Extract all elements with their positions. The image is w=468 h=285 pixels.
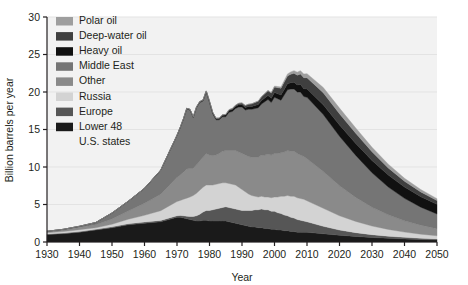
y-tick-label: 30 (28, 11, 40, 23)
chart-figure: 051015202530 193019401950196019701980199… (0, 0, 468, 285)
y-tick-label: 10 (28, 161, 40, 173)
legend-label: Russia (79, 90, 111, 102)
legend-swatch (56, 17, 73, 26)
x-tick-label: 2000 (263, 248, 287, 260)
oil-production-stacked-area-chart: 051015202530 193019401950196019701980199… (0, 0, 468, 285)
legend-label: Europe (79, 105, 113, 117)
legend-swatch (56, 62, 73, 71)
y-tick-label: 0 (34, 236, 40, 248)
legend-label: Middle East (79, 59, 134, 71)
x-tick-label: 1980 (198, 248, 222, 260)
x-tick-label: 1950 (100, 248, 124, 260)
y-tick-label: 20 (28, 86, 40, 98)
x-tick-label: 2040 (393, 248, 417, 260)
y-tick-label: 5 (34, 198, 40, 210)
x-axis-title: Year (231, 271, 253, 283)
x-tick-label: 2050 (425, 248, 449, 260)
y-tick-label: 15 (28, 123, 40, 135)
legend-swatch (56, 93, 73, 102)
x-tick-label: 2030 (360, 248, 384, 260)
legend-swatch (56, 108, 73, 117)
legend-label: Heavy oil (79, 44, 122, 56)
legend-swatch (56, 47, 73, 56)
legend-swatch (56, 77, 73, 86)
legend-swatch (56, 32, 73, 41)
x-tick-label: 2010 (295, 248, 319, 260)
x-tick-label: 1930 (35, 248, 59, 260)
x-tick-label: 1960 (133, 248, 157, 260)
x-tick-label: 1970 (165, 248, 189, 260)
legend-label: Deep-water oil (79, 29, 147, 41)
legend-swatch (56, 123, 73, 132)
x-tick-label: 2020 (328, 248, 352, 260)
legend-label: Polar oil (79, 14, 117, 26)
y-tick-label: 25 (28, 48, 40, 60)
x-tick-label: 1990 (230, 248, 254, 260)
legend-label: Lower 48 (79, 120, 122, 132)
legend-label: U.S. states (79, 135, 130, 147)
y-axis-title: Billion barrels per year (3, 77, 15, 182)
x-tick-label: 1940 (68, 248, 92, 260)
legend-label: Other (79, 74, 106, 86)
